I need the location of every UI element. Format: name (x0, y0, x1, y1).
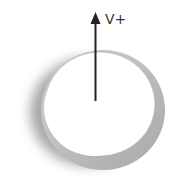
arrow-label: V+ (105, 11, 126, 27)
ring-band (41, 50, 165, 170)
diagram-canvas (0, 0, 180, 188)
